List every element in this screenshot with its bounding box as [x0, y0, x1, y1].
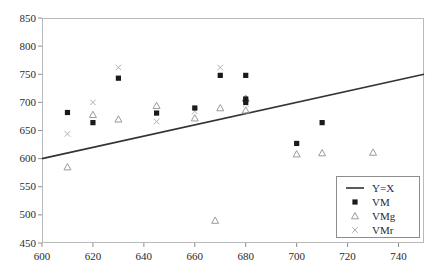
y-tick-label: 600 — [2, 153, 36, 164]
x-tick-label: 680 — [226, 251, 266, 262]
x-tick-label: 620 — [73, 251, 113, 262]
series-points-vmg — [64, 95, 377, 223]
legend-item-vmr[interactable]: VMr — [337, 223, 419, 237]
y-tick-label: 650 — [2, 125, 36, 136]
line-icon — [342, 181, 368, 195]
y-tick-label: 450 — [2, 238, 36, 249]
legend-label: Y=X — [368, 183, 394, 194]
legend-item-y-x[interactable]: Y=X — [337, 181, 419, 195]
x-cross-icon — [342, 223, 368, 237]
y-tick-label: 700 — [2, 97, 36, 108]
legend-label: VM — [368, 197, 390, 208]
chart-legend: Y=XVMVMgVMr — [336, 176, 420, 238]
x-tick-label: 640 — [124, 251, 164, 262]
y-tick-label: 550 — [2, 181, 36, 192]
x-tick-label: 720 — [328, 251, 368, 262]
x-tick-label: 600 — [22, 251, 62, 262]
chart-canvas — [0, 0, 433, 280]
x-tick-label: 740 — [379, 251, 419, 262]
x-tick-label: 700 — [277, 251, 317, 262]
legend-label: VMr — [368, 225, 393, 236]
scatter-chart: 450500550600650700750800850 600620640660… — [0, 0, 433, 280]
legend-item-vmg[interactable]: VMg — [337, 209, 419, 223]
x-tick-label: 660 — [175, 251, 215, 262]
y-tick-label: 500 — [2, 209, 36, 220]
x-axis-ticks — [42, 243, 399, 247]
y-tick-label: 750 — [2, 69, 36, 80]
filled-square-icon — [342, 195, 368, 209]
open-triangle-icon — [342, 209, 368, 223]
reference-line-y-equals-x — [42, 74, 424, 158]
y-tick-label: 800 — [2, 41, 36, 52]
series-points-vm — [65, 73, 325, 146]
y-axis-ticks — [38, 18, 42, 243]
legend-label: VMg — [368, 211, 395, 222]
legend-item-vm[interactable]: VM — [337, 195, 419, 209]
y-tick-label: 850 — [2, 13, 36, 24]
